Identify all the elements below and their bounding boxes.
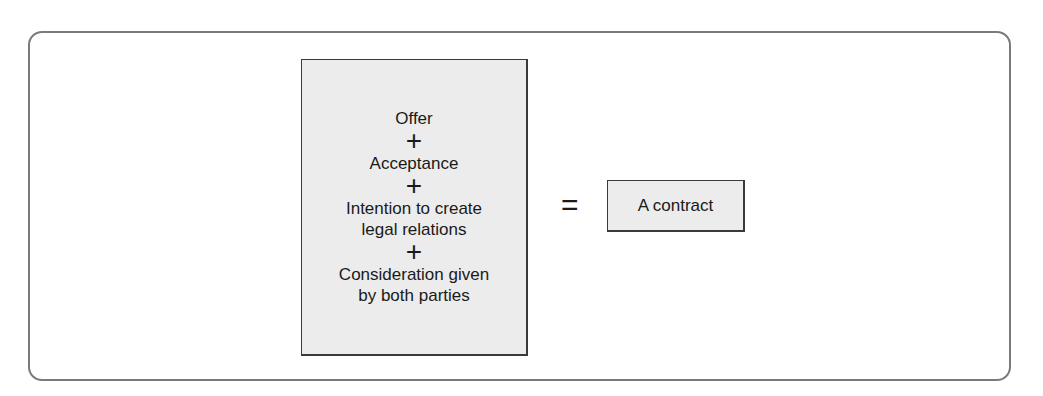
contract-elements-box: Offer + Acceptance + Intention to create… <box>301 59 528 356</box>
equals-operator: = <box>561 190 579 220</box>
result-label: A contract <box>638 196 714 216</box>
term-intention-line-1: Intention to create <box>346 198 482 219</box>
plus-operator: + <box>406 174 422 198</box>
result-box: A contract <box>607 180 745 232</box>
plus-operator: + <box>406 240 422 264</box>
term-consideration-line-2: by both parties <box>358 285 470 306</box>
term-consideration-line-1: Consideration given <box>339 264 489 285</box>
plus-operator: + <box>406 129 422 153</box>
